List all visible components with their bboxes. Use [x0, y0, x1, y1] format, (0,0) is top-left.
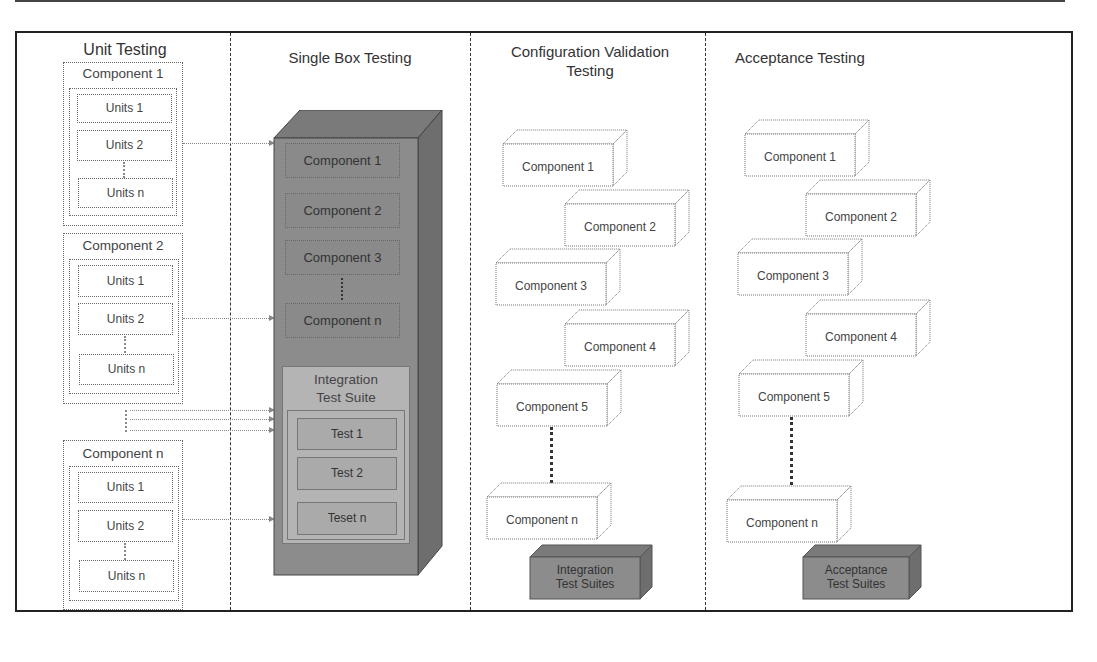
unit-box: Units n [78, 178, 173, 208]
column-title-acceptance-testing: Acceptance Testing [735, 48, 885, 67]
ellipsis-dots [124, 336, 126, 353]
arrow-component-n-to-server [183, 519, 273, 520]
cube-label: Component n [487, 513, 597, 527]
column-title-line2: Testing [480, 61, 700, 80]
unit-box: Units n [79, 354, 174, 385]
ellipsis-dots [550, 427, 553, 483]
cube-label: Component 5 [739, 390, 849, 404]
unit-box: Units 2 [78, 303, 173, 335]
cube-label: Component n [727, 516, 837, 530]
column-divider-3 [705, 33, 706, 610]
arrow-component-2-to-server [183, 318, 273, 319]
cube-label: Integration Test Suites [530, 563, 640, 591]
column-title-single-box-testing: Single Box Testing [250, 48, 450, 67]
server-component: Component 2 [285, 193, 400, 228]
cube-label: Component 1 [745, 150, 855, 164]
arrow-component-1-to-server [183, 143, 273, 144]
ellipsis-dots [125, 410, 127, 432]
cube-label: Component 2 [565, 220, 675, 234]
integration-test-suite-title: Integration Test Suite [282, 371, 410, 407]
unit-box: Units 2 [78, 510, 173, 542]
cube-label: Component 5 [497, 400, 607, 414]
server-component: Component n [285, 303, 400, 338]
arrow-to-integration-suite [130, 410, 273, 411]
cube-label: Component 4 [806, 330, 916, 344]
cube-label: Component 2 [806, 210, 916, 224]
unit-box: Units n [79, 560, 174, 592]
cube-label: Acceptance Test Suites [803, 563, 909, 591]
suite-line2: Test Suites [530, 577, 640, 591]
test-box: Teset n [297, 502, 397, 535]
unit-box: Units 1 [77, 94, 172, 123]
ellipsis-dots [790, 417, 793, 485]
test-box: Test 2 [297, 457, 397, 490]
unit-box: Units 2 [77, 130, 172, 161]
cube-label: Component 4 [565, 340, 675, 354]
server-component: Component 1 [285, 143, 400, 178]
suite-line2: Test Suites [803, 577, 909, 591]
suite-title-line2: Test Suite [282, 389, 410, 407]
ellipsis-dots [341, 278, 343, 300]
arrow-to-integration-suite [130, 430, 273, 431]
cube-label: Component 3 [738, 269, 848, 283]
server-component: Component 3 [285, 240, 400, 275]
unit-box: Units 1 [78, 265, 173, 297]
unit-component-n-title: Component n [63, 446, 183, 461]
suite-line1: Acceptance [803, 563, 909, 577]
column-divider-2 [470, 33, 471, 610]
column-divider-1 [230, 33, 231, 610]
column-title-line1: Configuration Validation [480, 42, 700, 61]
ellipsis-dots [124, 543, 126, 560]
cube-label: Component 1 [503, 160, 613, 174]
unit-component-1-title: Component 1 [63, 66, 183, 81]
cube-label: Component 3 [496, 279, 606, 293]
suite-line1: Integration [530, 563, 640, 577]
unit-component-2-title: Component 2 [63, 238, 183, 253]
unit-box: Units 1 [78, 472, 173, 503]
top-rule [15, 0, 1065, 2]
test-box: Test 1 [297, 418, 397, 450]
arrow-to-integration-suite [130, 419, 273, 420]
ellipsis-dots [123, 162, 125, 178]
column-title-unit-testing: Unit Testing [60, 40, 190, 59]
column-title-config-validation: Configuration Validation Testing [480, 42, 700, 80]
suite-title-line1: Integration [282, 371, 410, 389]
